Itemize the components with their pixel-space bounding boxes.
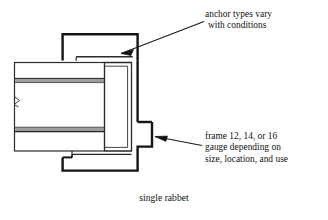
wall-section <box>14 63 105 152</box>
leader-line-anchor <box>121 22 204 54</box>
annotation-anchor-types-line1: anchor types vary <box>205 9 272 19</box>
annotation-frame-gauge: frame 12, 14, or 16gauge depending onsiz… <box>205 131 288 165</box>
annotation-frame-gauge-line2: gauge depending on <box>205 142 281 152</box>
figure-caption: single rabbet <box>0 192 328 203</box>
annotation-anchor-types-line2: with conditions <box>205 20 266 30</box>
gypsum-board-lower <box>15 127 104 131</box>
wall-body <box>15 63 105 152</box>
annotation-anchor-types: anchor types varywith conditions <box>205 9 272 32</box>
leader-arrowhead-gauge <box>155 136 168 141</box>
annotation-frame-gauge-line3: size, location, and use <box>205 154 288 164</box>
figure-canvas: anchor types varywith conditions frame 1… <box>0 0 328 220</box>
gypsum-board-upper <box>15 78 104 82</box>
leader-anchor-note <box>121 22 204 56</box>
annotation-frame-gauge-line1: frame 12, 14, or 16 <box>205 131 277 141</box>
leader-gauge-note <box>155 136 202 146</box>
single-rabbet-frame-drawing <box>0 0 328 220</box>
